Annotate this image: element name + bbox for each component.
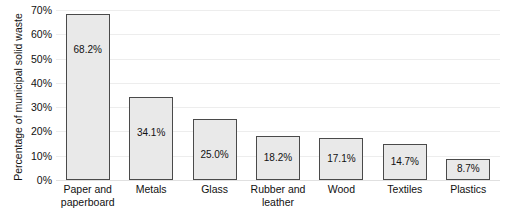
bar-value-label: 68.2% <box>66 44 110 55</box>
bar <box>129 97 173 180</box>
y-tick-label: 70% <box>26 4 52 16</box>
x-tick-label: Paper andpaperboard <box>56 183 119 208</box>
bar-value-label: 18.2% <box>256 152 300 163</box>
gridline <box>56 59 500 60</box>
y-axis-tick-labels: 70%60%50%40%30%20%10%0% <box>26 0 52 219</box>
x-tick-label: Plastics <box>437 183 500 196</box>
axis-baseline <box>56 180 500 181</box>
y-tick-label: 60% <box>26 28 52 40</box>
x-tick-label-line: paperboard <box>56 196 119 209</box>
x-tick-label: Textiles <box>373 183 436 196</box>
x-tick-label-line: Textiles <box>373 183 436 196</box>
x-tick-label-line: Glass <box>183 183 246 196</box>
plot-area: 68.2%34.1%25.0%18.2%17.1%14.7%8.7% <box>56 10 500 180</box>
x-tick-label-line: Metals <box>119 183 182 196</box>
y-tick-label: 10% <box>26 150 52 162</box>
x-tick-label: Glass <box>183 183 246 196</box>
x-tick-label-line: leather <box>246 196 309 209</box>
gridline <box>56 10 500 11</box>
bar-value-label: 17.1% <box>319 153 363 164</box>
y-axis-title: Percentage of municipal solid waste <box>9 2 27 192</box>
x-tick-label: Metals <box>119 183 182 196</box>
y-tick-label: 50% <box>26 53 52 65</box>
bar-value-label: 25.0% <box>193 149 237 160</box>
bar-value-label: 14.7% <box>383 156 427 167</box>
y-tick-label: 30% <box>26 101 52 113</box>
x-tick-label-line: Rubber and <box>246 183 309 196</box>
bar <box>66 14 110 180</box>
bar-value-label: 34.1% <box>129 127 173 138</box>
gridline <box>56 83 500 84</box>
gridline <box>56 34 500 35</box>
x-tick-label-line: Wood <box>310 183 373 196</box>
bar-chart: Percentage of municipal solid waste 70%6… <box>0 0 517 219</box>
gridline <box>56 131 500 132</box>
x-tick-label-line: Paper and <box>56 183 119 196</box>
y-tick-label: 40% <box>26 77 52 89</box>
x-tick-label-line: Plastics <box>437 183 500 196</box>
bar-value-label: 8.7% <box>446 163 490 174</box>
gridline <box>56 107 500 108</box>
x-tick-label: Rubber andleather <box>246 183 309 208</box>
x-tick-label: Wood <box>310 183 373 196</box>
y-tick-label: 0% <box>26 174 52 186</box>
y-tick-label: 20% <box>26 125 52 137</box>
